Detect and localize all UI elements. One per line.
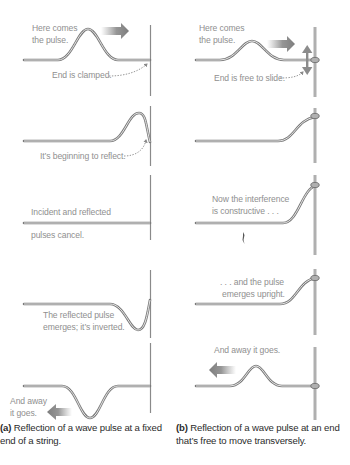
motion-arrow-right-icon — [101, 23, 129, 39]
small-marker-icon — [243, 232, 245, 244]
caption-text: Reflection of a wave pulse at an end tha… — [176, 422, 340, 446]
svg-text:the pulse.: the pulse. — [199, 35, 235, 45]
svg-text:emerges; it’s inverted.: emerges; it’s inverted. — [43, 322, 125, 332]
dotted-pointer-arrow-icon — [109, 64, 147, 76]
sliding-ring-icon — [311, 275, 319, 280]
svg-text:End is clamped.: End is clamped. — [52, 70, 112, 80]
string-pulse — [196, 186, 315, 223]
caption-b: (b) Reflection of a wave pulse at an end… — [176, 422, 350, 447]
string-pulse — [24, 113, 150, 142]
caption-tag: (a) — [0, 422, 11, 433]
panel-a2: It’s beginning to reflect. — [24, 113, 150, 161]
panel-b1: Here comes the pulse. End is free to sli… — [196, 23, 319, 83]
panel-b5: And away it goes. — [196, 345, 319, 389]
panel-b3: Now the interference is constructive . .… — [196, 182, 319, 244]
svg-text:And away it goes.: And away it goes. — [214, 345, 280, 355]
svg-text:emerges upright.: emerges upright. — [222, 289, 285, 299]
sliding-ring-icon — [311, 113, 319, 118]
string-pulse — [196, 117, 315, 141]
sliding-ring-icon — [311, 182, 319, 187]
panel-a5: And away it goes. — [10, 386, 150, 420]
dotted-pointer-arrow-icon — [124, 140, 146, 156]
caption-text: Reflection of a wave pulse at a fixed en… — [0, 422, 162, 446]
panel-b2 — [196, 113, 319, 141]
svg-text:And away: And away — [10, 396, 48, 406]
svg-text:is constructive . . .: is constructive . . . — [212, 206, 279, 216]
panel-a1: Here comes the pulse. End is clamped. — [24, 23, 150, 80]
svg-text:pulses cancel.: pulses cancel. — [31, 230, 84, 240]
motion-arrow-left-icon — [209, 362, 236, 378]
panel-a4: The reflected pulse emerges; it’s invert… — [24, 300, 150, 332]
svg-text:Now the interference: Now the interference — [212, 194, 290, 204]
svg-text:Incident and reflected: Incident and reflected — [31, 207, 111, 217]
column-b: Here comes the pulse. End is free to sli… — [196, 23, 319, 420]
motion-arrow-right-icon — [267, 36, 295, 52]
svg-text:. . . and the pulse: . . . and the pulse — [220, 277, 284, 287]
caption-a: (a) Reflection of a wave pulse at a fixe… — [0, 422, 170, 447]
sliding-ring-icon — [311, 383, 319, 388]
svg-text:it goes.: it goes. — [10, 408, 37, 418]
wave-reflection-figure: Here comes the pulse. End is clamped. It… — [0, 0, 350, 422]
sliding-ring-icon — [311, 57, 319, 62]
caption-tag: (b) — [176, 422, 188, 433]
column-a: Here comes the pulse. End is clamped. It… — [10, 23, 151, 420]
svg-text:It’s beginning to reflect.: It’s beginning to reflect. — [40, 151, 126, 161]
panel-b4: . . . and the pulse emerges upright. — [196, 275, 319, 304]
svg-text:the pulse.: the pulse. — [32, 35, 68, 45]
svg-text:Here comes: Here comes — [199, 23, 244, 33]
svg-text:The reflected pulse: The reflected pulse — [43, 310, 115, 320]
svg-text:Here comes: Here comes — [32, 23, 77, 33]
panel-a3: Incident and reflected pulses cancel. — [24, 207, 150, 240]
svg-text:End is free to slide.: End is free to slide. — [214, 73, 285, 83]
motion-arrow-left-icon — [47, 404, 72, 420]
